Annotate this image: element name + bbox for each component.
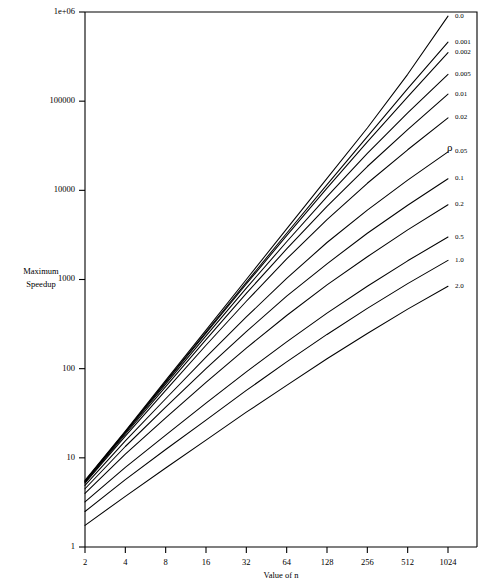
series-label-0.2: 0.2 bbox=[455, 200, 464, 208]
series-label-2.0: 2.0 bbox=[455, 282, 464, 290]
series-label-0.5: 0.5 bbox=[455, 233, 464, 241]
y-tick-label: 100000 bbox=[50, 95, 76, 105]
y-tick-label: 1000 bbox=[58, 273, 75, 283]
x-tick-label: 16 bbox=[202, 557, 211, 567]
legend-title-rho: ρ bbox=[447, 141, 453, 153]
y-axis-title-line-2: Speedup bbox=[26, 279, 55, 289]
x-tick-label: 128 bbox=[321, 557, 334, 567]
x-tick-label: 512 bbox=[401, 557, 414, 567]
y-tick-label: 1e+06 bbox=[54, 6, 75, 16]
series-label-0.01: 0.01 bbox=[455, 90, 468, 98]
y-tick-label: 10 bbox=[67, 452, 76, 462]
x-tick-label: 2 bbox=[83, 557, 87, 567]
maximum-speedup-log-log-chart: 1101001000100001000001e+06 2481632641282… bbox=[0, 0, 487, 588]
y-tick-label: 10000 bbox=[54, 184, 75, 194]
series-label-0.05: 0.05 bbox=[455, 147, 468, 155]
x-tick-label: 1024 bbox=[440, 557, 458, 567]
series-label-0.001: 0.001 bbox=[455, 38, 471, 46]
series-label-0.002: 0.002 bbox=[455, 48, 471, 56]
x-tick-label: 256 bbox=[361, 557, 374, 567]
y-axis-title-line-1: Maximum bbox=[23, 266, 59, 276]
series-label-0.1: 0.1 bbox=[455, 174, 464, 182]
series-label-1.0: 1.0 bbox=[455, 256, 464, 264]
x-tick-label: 64 bbox=[282, 557, 291, 567]
series-label-0.02: 0.02 bbox=[455, 113, 468, 121]
chart-figure: 1101001000100001000001e+06 2481632641282… bbox=[0, 0, 487, 588]
chart-background bbox=[0, 0, 487, 588]
y-tick-label: 100 bbox=[62, 363, 75, 373]
x-axis-title: Value of n bbox=[264, 570, 300, 580]
x-tick-label: 32 bbox=[242, 557, 251, 567]
y-tick-label: 1 bbox=[71, 541, 75, 551]
series-label-0.0: 0.0 bbox=[455, 12, 464, 20]
x-tick-label: 4 bbox=[123, 557, 128, 567]
x-tick-label: 8 bbox=[164, 557, 168, 567]
series-label-0.005: 0.005 bbox=[455, 70, 471, 78]
